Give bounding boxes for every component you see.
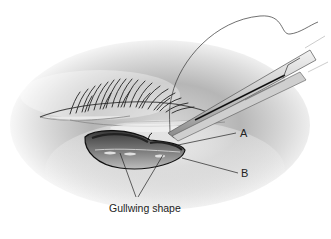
label-a: A <box>240 128 247 139</box>
label-b: B <box>241 168 248 179</box>
label-gullwing-shape: Gullwing shape <box>109 203 181 214</box>
